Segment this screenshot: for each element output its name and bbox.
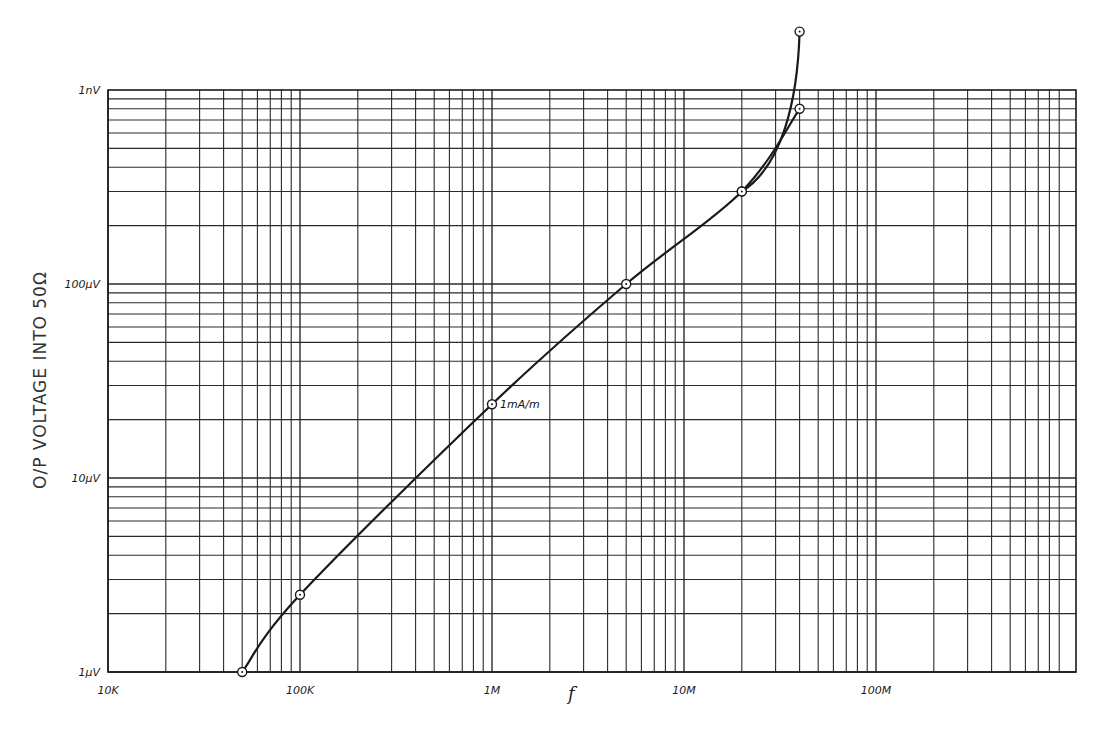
data-point-dot bbox=[491, 403, 493, 405]
data-point-dot bbox=[799, 108, 801, 110]
y-tick-label: 1µV bbox=[78, 666, 101, 679]
data-point-dot bbox=[799, 31, 801, 33]
y-tick-label: 100µV bbox=[64, 278, 101, 291]
annotation-1ma-per-m: 1mA/m bbox=[500, 398, 540, 411]
data-curves bbox=[242, 32, 799, 672]
y-tick-labels: 1nV100µV10µV1µV bbox=[64, 84, 101, 679]
plot-frame bbox=[108, 90, 1076, 672]
x-axis-title: f bbox=[566, 683, 578, 704]
data-point-dot bbox=[741, 190, 743, 192]
x-tick-labels: 10K100K1M10M100M bbox=[97, 684, 891, 697]
data-point-dot bbox=[299, 594, 301, 596]
y-axis-title: O/P VOLTAGE INTO 50Ω bbox=[30, 271, 50, 489]
data-point-dot bbox=[625, 283, 627, 285]
x-tick-label: 10K bbox=[97, 684, 119, 697]
y-tick-label: 1nV bbox=[79, 84, 102, 97]
y-tick-label: 10µV bbox=[71, 472, 101, 485]
horizontal-grid-lines bbox=[108, 99, 1076, 672]
x-tick-label: 100M bbox=[861, 684, 892, 697]
chart: 1nV100µV10µV1µV 10K100K1M10M100M f O/P V… bbox=[0, 0, 1099, 729]
x-tick-label: 100K bbox=[286, 684, 315, 697]
x-tick-label: 1M bbox=[484, 684, 501, 697]
curve-main bbox=[242, 109, 799, 672]
x-tick-label: 10M bbox=[672, 684, 696, 697]
vertical-grid-lines bbox=[108, 90, 1059, 672]
data-point-dot bbox=[241, 671, 243, 673]
